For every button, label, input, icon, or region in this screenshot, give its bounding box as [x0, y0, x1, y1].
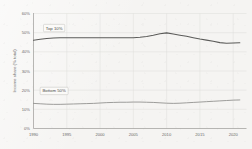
x-axis-tick-label: 2010 — [162, 132, 172, 137]
series-label-text: Bottom 50% — [42, 88, 66, 93]
x-axis-tick-label: 2005 — [129, 132, 139, 137]
y-axis-title: Income share (% total) — [12, 49, 17, 93]
income-share-line-chart: 0%10%20%30%40%50%60%19901995200020052010… — [0, 0, 252, 149]
y-axis-tick-label: 50% — [22, 30, 31, 35]
x-axis-tick-label: 1995 — [62, 132, 72, 137]
y-axis-tick-label: 0% — [24, 126, 30, 131]
x-axis-tick-label: 2015 — [195, 132, 205, 137]
x-axis-tick-label: 1990 — [29, 132, 39, 137]
y-axis-tick-label: 30% — [22, 69, 31, 74]
y-axis-tick-label: 20% — [22, 88, 31, 93]
series-line-top-10 — [34, 33, 240, 43]
series-line-bottom-50 — [34, 100, 240, 104]
chart-container: 0%10%20%30%40%50%60%19901995200020052010… — [0, 0, 252, 149]
x-axis-tick-label: 2000 — [96, 132, 106, 137]
y-axis-tick-label: 10% — [22, 107, 31, 112]
x-axis-tick-label: 2020 — [229, 132, 239, 137]
series-label-text: Top 10% — [46, 26, 63, 31]
y-axis-tick-label: 60% — [22, 11, 31, 16]
y-axis-tick-label: 40% — [22, 49, 31, 54]
